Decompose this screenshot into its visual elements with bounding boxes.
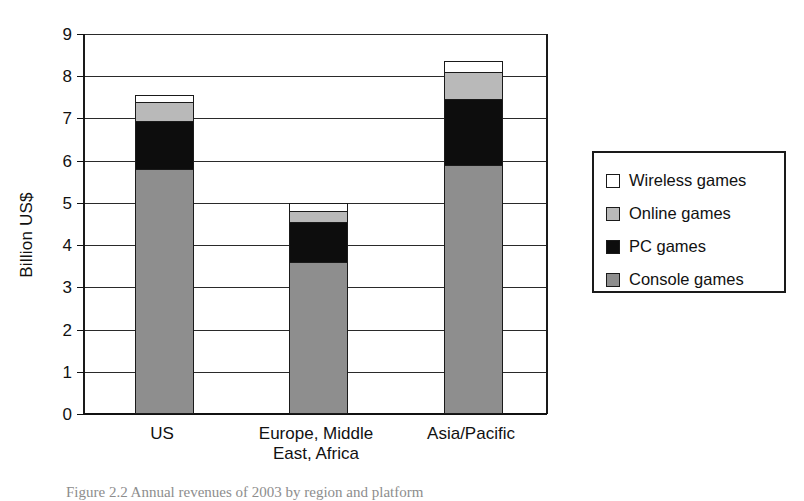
legend-label-wireless: Wireless games xyxy=(629,171,746,190)
x-axis-label-3: Asia/Pacific xyxy=(361,424,581,444)
bar-segment-online[interactable] xyxy=(135,102,194,121)
bar-2[interactable] xyxy=(289,203,348,414)
y-tick-label-8: 8 xyxy=(63,68,72,85)
y-tick-6 xyxy=(77,161,85,162)
bar-segment-wireless[interactable] xyxy=(289,203,348,211)
bar-segment-pc[interactable] xyxy=(444,99,503,164)
bar-3[interactable] xyxy=(444,61,503,414)
y-tick-2 xyxy=(77,330,85,331)
y-tick-label-5: 5 xyxy=(63,194,72,211)
y-tick-label-4: 4 xyxy=(63,237,72,254)
bar-segment-console[interactable] xyxy=(444,165,503,414)
y-tick-9 xyxy=(77,34,85,35)
y-tick-8 xyxy=(77,76,85,77)
legend-item-wireless[interactable]: Wireless games xyxy=(606,164,784,197)
y-tick-4 xyxy=(77,245,85,246)
legend-item-online[interactable]: Online games xyxy=(606,197,784,230)
swatch-pc-icon xyxy=(606,240,620,254)
bar-segment-pc[interactable] xyxy=(135,121,194,170)
gridline-9 xyxy=(85,34,546,35)
y-tick-5 xyxy=(77,203,85,204)
bar-segment-online[interactable] xyxy=(289,211,348,222)
bar-segment-console[interactable] xyxy=(289,262,348,414)
y-tick-label-1: 1 xyxy=(63,363,72,380)
swatch-online-icon xyxy=(606,207,620,221)
legend-label-online: Online games xyxy=(629,204,731,223)
y-tick-1 xyxy=(77,372,85,373)
legend-item-pc[interactable]: PC games xyxy=(606,230,784,263)
swatch-wireless-icon xyxy=(606,174,620,188)
y-tick-3 xyxy=(77,287,85,288)
y-tick-label-7: 7 xyxy=(63,110,72,127)
bar-segment-online[interactable] xyxy=(444,72,503,99)
y-axis-title: Billion US$ xyxy=(17,135,37,335)
figure-caption: Figure 2.2 Annual revenues of 2003 by re… xyxy=(66,484,766,501)
y-tick-label-3: 3 xyxy=(63,279,72,296)
y-tick-7 xyxy=(77,118,85,119)
bar-segment-pc[interactable] xyxy=(289,222,348,262)
y-tick-label-9: 9 xyxy=(63,26,72,43)
y-tick-label-2: 2 xyxy=(63,321,72,338)
legend-label-pc: PC games xyxy=(629,237,706,256)
bar-1[interactable] xyxy=(135,95,194,414)
y-tick-label-6: 6 xyxy=(63,152,72,169)
y-tick-label-0: 0 xyxy=(63,406,72,423)
bar-segment-console[interactable] xyxy=(135,169,194,414)
bar-segment-wireless[interactable] xyxy=(444,61,503,72)
legend: Wireless games Online games PC games Con… xyxy=(592,151,786,293)
legend-item-console[interactable]: Console games xyxy=(606,263,784,296)
swatch-console-icon xyxy=(606,273,620,287)
plot-area: 9876543210 xyxy=(83,34,548,414)
y-tick-0 xyxy=(77,414,85,415)
legend-label-console: Console games xyxy=(629,270,744,289)
